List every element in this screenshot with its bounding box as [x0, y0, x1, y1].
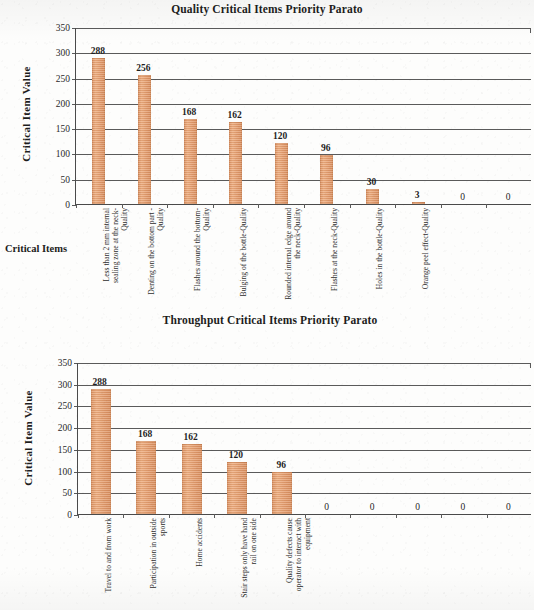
bar: [182, 444, 202, 514]
y-axis-tick-label: 50: [61, 175, 71, 185]
x-axis-category-label: Rounded internal edge around the neck-Qu…: [284, 208, 302, 304]
x-axis-category-label: Orange peel effect-Quality: [421, 208, 430, 304]
bar: [136, 441, 156, 514]
x-axis-category-label: Quality defects cause operator to intera…: [285, 518, 313, 606]
y-axis-tick-label: 150: [56, 124, 70, 134]
scanned-page: Quality Critical Items Priority Parato C…: [0, 0, 534, 610]
bar-value-label: 0: [506, 502, 511, 512]
bar-value-label: 288: [91, 46, 105, 56]
bar: [91, 389, 111, 514]
x-axis-category-labels: Less than 2 mm internal sealing zone at …: [0, 208, 534, 310]
y-axis-title: Critical Item Value: [22, 368, 34, 508]
gridline: [76, 53, 531, 54]
bar-value-label: 288: [93, 377, 107, 387]
x-axis-category-label: Flashes at the neck-Quality: [330, 208, 339, 304]
y-axis-tick-label: 250: [58, 401, 72, 411]
quality-pareto-chart: Quality Critical Items Priority Parato C…: [0, 0, 534, 310]
bar: [272, 472, 292, 514]
bar: [92, 58, 105, 204]
bar: [184, 119, 197, 204]
bar-value-label: 0: [415, 502, 420, 512]
y-axis-tick-label: 250: [56, 74, 70, 84]
x-axis-category-label: Holes in the bottle-Quality: [375, 208, 384, 304]
x-axis-title: Critical Items: [5, 243, 67, 254]
x-axis-category-label: Bulging of the bottle-Quality: [239, 208, 248, 304]
x-axis-category-label: Stair steps only have hand rail on one s…: [240, 518, 258, 606]
x-axis-category-label: Home accidents: [195, 518, 204, 606]
bar-value-label: 256: [136, 63, 150, 73]
y-axis-tick-labels: 350300250200150100500: [46, 363, 72, 515]
chart-title: Quality Critical Items Priority Parato: [0, 3, 534, 15]
y-axis-tick-label: 50: [63, 488, 73, 498]
x-axis-category-labels: Travel to and from workParticipation in …: [0, 518, 534, 610]
bar-value-label: 3: [415, 190, 420, 200]
y-axis-tick-label: 300: [56, 48, 70, 58]
y-axis-tick-label: 300: [58, 380, 72, 390]
y-axis-tick-label: 100: [58, 467, 72, 477]
x-axis-category-label: Less than 2 mm internal sealing zone at …: [102, 208, 130, 304]
bar-value-label: 162: [183, 432, 197, 442]
y-axis-tick-labels: 350300250200150100500: [44, 28, 70, 205]
bar-value-label: 168: [182, 107, 196, 117]
x-axis-category-label: Travel to and from work: [104, 518, 113, 606]
bar-value-label: 96: [277, 460, 287, 470]
bar: [229, 122, 242, 204]
bar: [275, 143, 288, 204]
y-axis-tick-label: 100: [56, 149, 70, 159]
bar-value-label: 0: [460, 192, 465, 202]
bar-value-label: 120: [273, 131, 287, 141]
bar-value-label: 0: [506, 192, 511, 202]
bar-value-label: 0: [461, 502, 466, 512]
bar: [138, 75, 151, 204]
x-axis-category-label: Participation in outside sports: [149, 518, 167, 606]
bar: [366, 189, 379, 204]
bar-value-label: 162: [227, 110, 241, 120]
bar-value-label: 168: [138, 429, 152, 439]
bar-value-label: 0: [324, 502, 329, 512]
gridline: [78, 406, 531, 407]
gridline: [78, 385, 531, 386]
chart-title: Throughput Critical Items Priority Parat…: [0, 314, 534, 326]
bar-value-label: 30: [367, 177, 377, 187]
bar: [412, 202, 425, 204]
gridline: [76, 28, 531, 29]
y-axis-tick-label: 350: [56, 23, 70, 33]
y-axis-tick-label: 150: [58, 445, 72, 455]
bar: [320, 155, 333, 204]
throughput-pareto-chart: Throughput Critical Items Priority Parat…: [0, 310, 534, 610]
bar-value-label: 120: [229, 450, 243, 460]
y-axis-tick-label: 200: [56, 99, 70, 109]
bar: [227, 462, 247, 514]
x-axis-category-label: Flashes around the bottom-Quality: [193, 208, 211, 304]
y-axis-title: Critical Item Value: [20, 44, 32, 184]
plot-area: [75, 28, 531, 205]
y-axis-tick-label: 200: [58, 423, 72, 433]
bar-value-label: 96: [321, 143, 331, 153]
bar-value-label: 0: [370, 502, 375, 512]
x-axis-category-label: Denting on the bottom part -Quality: [147, 208, 165, 304]
y-axis-tick-label: 350: [58, 358, 72, 368]
gridline: [78, 363, 531, 364]
